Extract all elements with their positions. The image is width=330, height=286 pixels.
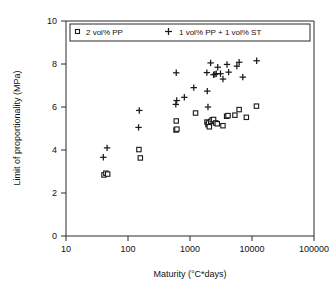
y-tick-label-8: 8: [52, 59, 57, 69]
data-point-square: [221, 124, 225, 128]
data-series-1-vol-pp-1-vol-st: [100, 58, 260, 161]
y-tick-label-2: 2: [52, 188, 57, 198]
data-point-square: [226, 113, 230, 117]
data-series-2-vol-pp: [102, 104, 259, 177]
data-point-plus: [135, 124, 141, 130]
x-tick-label-100000: 100000: [299, 244, 329, 254]
data-point-square: [138, 156, 142, 160]
x-axis-ticks: [66, 236, 314, 241]
data-point-plus: [205, 104, 211, 110]
scatter-chart-figure: 0 2 4 6 8 10 10 100 1000 10000 100000 Ma…: [0, 0, 330, 286]
data-point-plus: [215, 64, 221, 70]
legend-marker-open-square: [76, 30, 80, 34]
legend-label-series-2: 1 vol% PP + 1 vol% ST: [179, 28, 261, 37]
x-tick-label-10000: 10000: [239, 244, 264, 254]
data-point-plus: [212, 71, 218, 77]
data-point-square: [175, 127, 179, 131]
y-axis-tick-labels: 0 2 4 6 8 10: [47, 16, 57, 241]
data-point-square: [137, 147, 141, 151]
data-point-plus: [136, 107, 142, 113]
y-tick-label-10: 10: [47, 16, 57, 26]
data-point-square: [237, 107, 241, 111]
data-point-plus: [104, 145, 110, 151]
data-point-plus: [100, 154, 106, 160]
data-point-square: [254, 104, 258, 108]
data-point-square: [105, 172, 109, 176]
y-axis-ticks: [61, 21, 66, 236]
x-axis-tick-labels: 10 100 1000 10000 100000: [61, 244, 329, 254]
data-point-plus: [204, 69, 210, 75]
x-tick-label-100: 100: [120, 244, 135, 254]
data-point-plus: [240, 74, 246, 80]
x-tick-label-10: 10: [61, 244, 71, 254]
x-tick-label-1000: 1000: [180, 244, 200, 254]
data-point-square: [215, 122, 219, 126]
plot-frame: [66, 21, 314, 236]
data-point-square: [174, 119, 178, 123]
y-tick-label-0: 0: [52, 231, 57, 241]
data-point-plus: [173, 101, 179, 107]
x-axis-title: Maturity (°C*days): [153, 269, 226, 279]
chart-legend: 2 vol% PP 1 vol% PP + 1 vol% ST: [70, 24, 310, 41]
data-point-plus: [173, 70, 179, 76]
data-point-square: [193, 111, 197, 115]
data-point-plus: [224, 61, 230, 67]
chart-canvas: 0 2 4 6 8 10 10 100 1000 10000 100000 Ma…: [0, 0, 330, 286]
data-point-plus: [181, 94, 187, 100]
data-point-square: [233, 113, 237, 117]
data-point-plus: [253, 58, 259, 64]
y-tick-label-4: 4: [52, 145, 57, 155]
legend-label-series-1: 2 vol% PP: [86, 28, 123, 37]
data-point-square: [207, 125, 211, 129]
data-point-plus: [204, 88, 210, 94]
data-point-square: [244, 115, 248, 119]
data-point-plus: [225, 69, 231, 75]
data-point-plus: [191, 84, 197, 90]
y-tick-label-6: 6: [52, 102, 57, 112]
y-axis-title: Limit of proportionality (MPa): [12, 70, 22, 185]
data-point-plus: [173, 97, 179, 103]
data-point-plus: [207, 60, 213, 66]
